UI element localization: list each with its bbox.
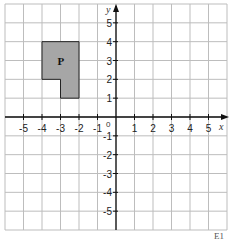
y-tick-label: 1 [106, 93, 112, 104]
y-tick-label: -5 [103, 206, 112, 217]
x-tick-label: -4 [38, 123, 47, 134]
y-tick-label: -2 [103, 150, 112, 161]
x-tick-label: -1 [93, 123, 102, 134]
x-axis-label: x [218, 121, 224, 132]
y-tick-label: -4 [103, 187, 112, 198]
x-tick-label: 4 [187, 123, 193, 134]
y-tick-label: 3 [106, 56, 112, 67]
y-axis-arrow-icon [113, 4, 119, 12]
x-tick-label: -3 [56, 123, 65, 134]
origin-label: 0 [106, 120, 111, 129]
x-tick-label: -2 [75, 123, 84, 134]
x-tick-label: 2 [150, 123, 156, 134]
y-tick-label: -1 [103, 131, 112, 142]
y-axis-label: y [105, 4, 111, 15]
x-axis-arrow-icon [221, 114, 229, 120]
x-tick-label: 3 [169, 123, 175, 134]
y-tick-label: -3 [103, 169, 112, 180]
y-tick-label: 4 [106, 37, 112, 48]
y-tick-label: 2 [106, 74, 112, 85]
coordinate-grid: Pxy0-5-4-3-2-11234554321-1-2-3-4-5 [0, 0, 232, 241]
shape-label: P [58, 55, 65, 67]
shape-p [42, 42, 79, 98]
page-footer-mark: E1 [214, 231, 224, 241]
x-tick-label: 1 [132, 123, 138, 134]
x-tick-label: 5 [206, 123, 212, 134]
x-tick-label: -5 [19, 123, 28, 134]
y-tick-label: 5 [106, 18, 112, 29]
